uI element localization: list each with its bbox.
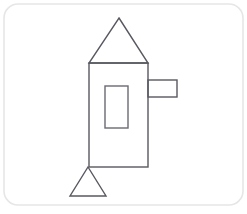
base-triangle bbox=[70, 167, 106, 196]
drawing-canvas bbox=[0, 0, 247, 214]
body-rectangle bbox=[89, 63, 148, 167]
side-arm-rectangle bbox=[148, 80, 177, 97]
rounded-frame-border bbox=[4, 4, 243, 205]
line-drawing bbox=[0, 0, 247, 214]
window-rectangle bbox=[105, 86, 128, 128]
roof-triangle bbox=[89, 18, 148, 63]
